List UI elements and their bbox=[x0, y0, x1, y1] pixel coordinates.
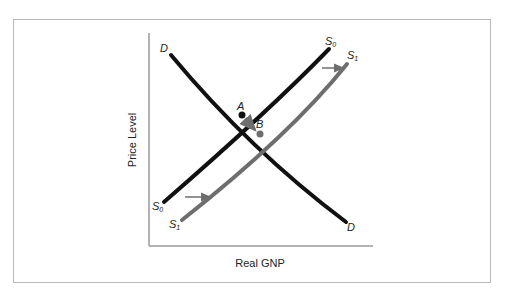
point-b-marker bbox=[257, 131, 264, 138]
point-a-marker bbox=[239, 112, 246, 119]
label-s1-bottom: S1 bbox=[169, 218, 180, 231]
supply-demand-diagram: D D S0 S1 S0 S1 A B Real GNP Price Level bbox=[0, 0, 505, 301]
label-s0-top: S0 bbox=[325, 35, 336, 48]
y-axis-label: Price Level bbox=[126, 113, 138, 167]
label-d-bottom: D bbox=[347, 221, 355, 233]
label-point-a: A bbox=[236, 100, 244, 112]
supply-curve-s0 bbox=[164, 49, 329, 202]
label-s0-bottom: S0 bbox=[152, 200, 163, 213]
label-d-top: D bbox=[160, 42, 168, 54]
x-axis-label: Real GNP bbox=[235, 257, 285, 269]
label-point-b: B bbox=[256, 118, 263, 130]
label-s1-top: S1 bbox=[347, 49, 358, 62]
